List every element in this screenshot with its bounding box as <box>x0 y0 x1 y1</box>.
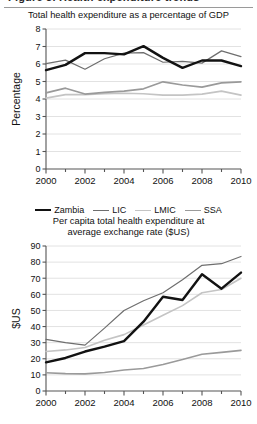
y-tick-label-8: 8 <box>35 24 40 34</box>
legend-label-ssa: SSA <box>204 205 222 215</box>
x-tick-label-2004: 2004 <box>113 175 134 186</box>
x-tick-label-2002: 2002 <box>74 175 95 186</box>
chart-svg-per-capita-usd: 0102030405060708090200020022004200620082… <box>0 238 257 423</box>
x-tick-label-2000: 2000 <box>35 397 56 408</box>
y-tick-label-6: 6 <box>35 59 40 69</box>
legend-line-swatch-lic <box>93 210 109 211</box>
x-axis-ticks: 200020022004200620082010 <box>35 391 251 408</box>
plot-area-gdp-share: 012345678200020022004200620082010Percent… <box>0 21 257 199</box>
y-tick-label-1: 1 <box>35 147 40 157</box>
chart-title-per-capita-usd-line2: average exchange rate ($US) <box>0 227 257 238</box>
x-axis-ticks: 200020022004200620082010 <box>35 169 251 186</box>
x-tick-label-2008: 2008 <box>191 397 212 408</box>
y-tick-label-90: 90 <box>30 241 40 251</box>
x-tick-label-2008: 2008 <box>191 175 212 186</box>
series-line-lic <box>46 256 241 345</box>
legend-item-zambia[interactable]: Zambia <box>35 205 84 215</box>
legend-item-lic[interactable]: LIC <box>93 205 126 215</box>
chart-title-gdp-share: Total health expenditure as a percentage… <box>0 10 257 21</box>
legend-line-swatch-ssa <box>185 210 201 211</box>
y-axis-title: $US <box>10 308 22 328</box>
y-tick-label-2: 2 <box>35 129 40 139</box>
y-tick-label-0: 0 <box>35 164 40 174</box>
legend-label-lic: LIC <box>112 205 126 215</box>
y-tick-label-3: 3 <box>35 112 40 122</box>
y-tick-label-50: 50 <box>30 306 40 316</box>
chart-svg-gdp-share: 012345678200020022004200620082010Percent… <box>0 21 257 199</box>
data-series <box>46 256 241 373</box>
header-divider <box>4 7 253 8</box>
series-line-zambia <box>46 46 241 70</box>
x-tick-label-2006: 2006 <box>152 175 173 186</box>
figure-root: Figure 3. Health expenditure trends Tota… <box>0 0 257 424</box>
x-tick-label-2004: 2004 <box>113 397 134 408</box>
chart-title-per-capita-usd-line1: Per capita total health expenditure at <box>0 216 257 227</box>
y-axis-ticks: 0102030405060708090 <box>30 241 46 396</box>
x-tick-label-2002: 2002 <box>74 397 95 408</box>
y-tick-label-30: 30 <box>30 338 40 348</box>
legend-line-swatch-zambia <box>35 209 51 211</box>
y-tick-label-7: 7 <box>35 42 40 52</box>
y-tick-label-5: 5 <box>35 77 40 87</box>
y-tick-label-4: 4 <box>35 94 40 104</box>
data-series <box>46 46 241 98</box>
series-line-lmic <box>46 278 241 351</box>
legend-item-ssa[interactable]: SSA <box>185 205 222 215</box>
y-axis-ticks: 012345678 <box>35 24 46 174</box>
axes <box>46 246 241 391</box>
legend-line-swatch-lmic <box>135 210 151 211</box>
y-tick-label-10: 10 <box>30 370 40 380</box>
legend-item-lmic[interactable]: LMIC <box>135 205 176 215</box>
legend-label-zambia: Zambia <box>54 205 84 215</box>
y-tick-label-40: 40 <box>30 322 40 332</box>
plot-area-per-capita-usd: 0102030405060708090200020022004200620082… <box>0 238 257 423</box>
x-tick-label-2010: 2010 <box>230 175 251 186</box>
clipped-caption-text: Figure 3. Health expenditure trends <box>8 0 200 3</box>
y-tick-label-80: 80 <box>30 257 40 267</box>
series-line-lmic <box>46 91 241 98</box>
y-tick-label-60: 60 <box>30 290 40 300</box>
chart-panel-per-capita-usd: Per capita total health expenditure at a… <box>0 216 257 424</box>
y-tick-label-0: 0 <box>35 386 40 396</box>
x-tick-label-2010: 2010 <box>230 397 251 408</box>
legend-label-lmic: LMIC <box>154 205 176 215</box>
x-tick-label-2000: 2000 <box>35 175 56 186</box>
clipped-caption-fragment: Figure 3. Health expenditure trends <box>0 0 257 7</box>
y-axis-title: Percentage <box>10 72 22 126</box>
y-tick-label-70: 70 <box>30 274 40 284</box>
y-tick-label-20: 20 <box>30 354 40 364</box>
x-tick-label-2006: 2006 <box>152 397 173 408</box>
chart-panel-gdp-share: Total health expenditure as a percentage… <box>0 10 257 200</box>
